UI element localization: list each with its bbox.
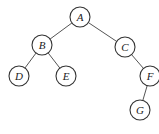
edges — [19, 17, 150, 110]
node-b-label: B — [39, 39, 46, 51]
node-e-label: E — [62, 70, 70, 82]
node-f-label: F — [146, 70, 154, 82]
node-c-label: C — [121, 41, 129, 53]
node-g: G — [130, 100, 150, 120]
tree-diagram: A B C D E F G — [0, 0, 159, 134]
node-f: F — [140, 66, 159, 86]
node-e: E — [56, 66, 76, 86]
node-d: D — [9, 66, 29, 86]
node-a-label: A — [76, 11, 84, 23]
node-d-label: D — [14, 70, 23, 82]
node-b: B — [32, 35, 52, 55]
node-g-label: G — [136, 104, 144, 116]
node-a: A — [70, 7, 90, 27]
node-c: C — [115, 37, 135, 57]
